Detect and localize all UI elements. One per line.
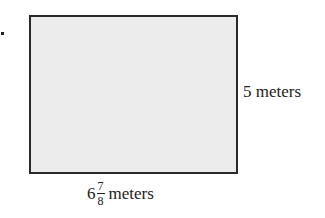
fraction-denominator: 8 xyxy=(98,195,104,207)
width-fraction: 7 8 xyxy=(97,180,105,207)
width-unit: meters xyxy=(109,184,154,204)
rectangle-figure xyxy=(29,15,238,174)
list-bullet-marker xyxy=(1,32,4,35)
width-label: 6 7 8 meters xyxy=(87,180,154,207)
width-whole-number: 6 xyxy=(87,184,96,204)
fraction-numerator: 7 xyxy=(97,180,105,192)
height-label: 5 meters xyxy=(243,82,301,102)
